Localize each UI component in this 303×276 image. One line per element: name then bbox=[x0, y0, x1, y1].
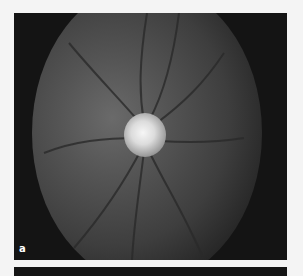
optic-disc bbox=[124, 113, 166, 157]
fundus-image-panel-b bbox=[14, 267, 287, 276]
panel-label: a bbox=[19, 243, 26, 254]
fundus-image-panel-a: a bbox=[14, 13, 287, 260]
